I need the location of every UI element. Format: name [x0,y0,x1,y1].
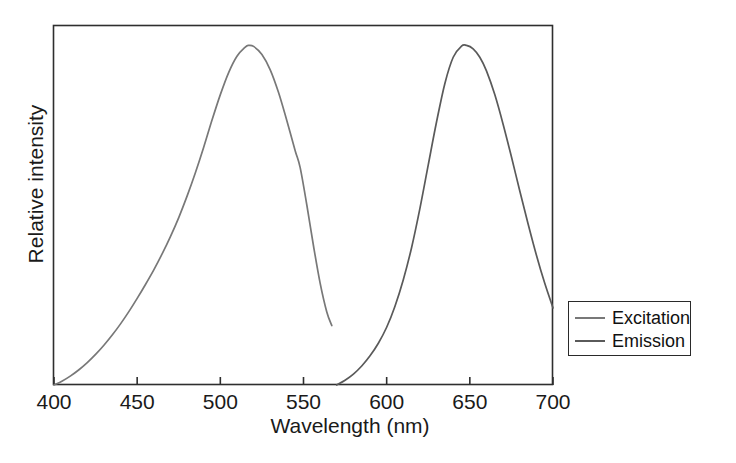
x-tick-label: 450 [97,390,177,414]
x-tick-label: 550 [264,390,344,414]
x-tick-label: 700 [513,390,593,414]
curve-excitation [54,45,332,385]
legend-swatch-excitation [575,317,605,319]
x-tick-label: 500 [180,390,260,414]
legend-label-emission: Emission [612,332,685,350]
legend-item-emission: Emission [569,329,690,352]
y-axis-title: Relative intensity [24,84,48,284]
x-tick-label: 400 [14,390,94,414]
curve-emission [337,45,553,385]
data-curves [54,45,553,385]
x-tick-label: 650 [430,390,510,414]
legend-swatch-emission [575,340,605,342]
x-axis-title: Wavelength (nm) [150,414,550,438]
plot-frame [54,26,553,385]
legend-label-excitation: Excitation [612,309,690,327]
spectra-figure: 400450500550600650700 Wavelength (nm) Re… [0,0,736,463]
chart-legend: Excitation Emission [568,301,691,356]
x-tick-label: 600 [347,390,427,414]
legend-item-excitation: Excitation [569,306,690,329]
